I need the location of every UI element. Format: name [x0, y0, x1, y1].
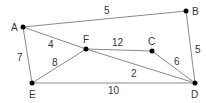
- edge-B-D: [186, 11, 195, 83]
- node-A: [21, 25, 26, 30]
- edge-weight-A-B: 5: [104, 5, 110, 16]
- weighted-graph-diagram: 54781226510 ABCDEF: [0, 0, 206, 103]
- node-label-C: C: [148, 36, 155, 47]
- edge-F-C: [86, 49, 152, 51]
- node-label-B: B: [192, 6, 199, 17]
- edge-F-E: [32, 49, 86, 83]
- edge-weight-B-D: 5: [195, 44, 201, 55]
- node-D: [193, 81, 198, 86]
- edge-weight-F-D: 2: [131, 68, 137, 79]
- edge-weight-C-D: 6: [174, 56, 180, 67]
- edge-weight-E-D: 10: [108, 85, 120, 96]
- edge-weight-A-E: 7: [17, 52, 23, 63]
- node-label-E: E: [29, 89, 36, 100]
- edge-weight-F-E: 8: [52, 57, 58, 68]
- edge-weight-F-C: 12: [112, 37, 124, 48]
- node-B: [184, 9, 189, 14]
- edge-A-F: [23, 27, 86, 49]
- edge-A-E: [23, 27, 32, 83]
- node-F: [84, 47, 89, 52]
- edge-weight-A-F: 4: [48, 39, 54, 50]
- node-C: [150, 49, 155, 54]
- node-label-A: A: [11, 22, 18, 33]
- node-labels: ABCDEF: [11, 6, 199, 100]
- node-label-F: F: [83, 34, 89, 45]
- node-E: [30, 81, 35, 86]
- node-label-D: D: [191, 89, 198, 100]
